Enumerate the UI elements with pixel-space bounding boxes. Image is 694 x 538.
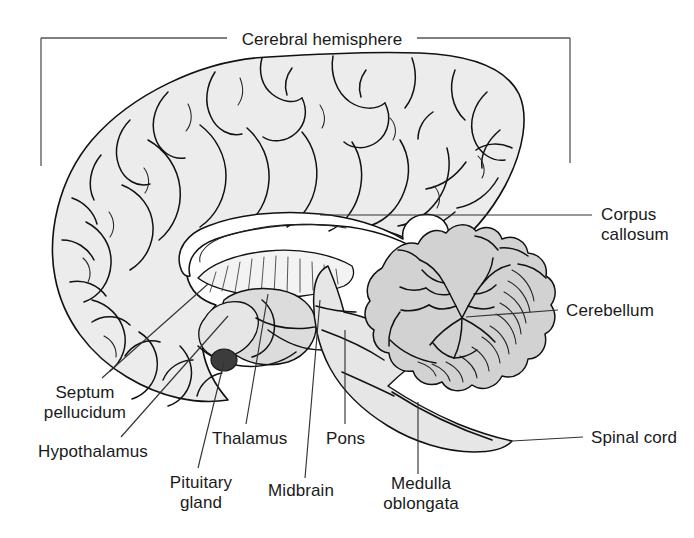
label-cerebellum: Cerebellum <box>566 301 654 320</box>
label-cerebral-hemisphere: Cerebral hemisphere <box>242 30 403 49</box>
label-corpus-callosum-line1: Corpus <box>601 205 656 224</box>
label-pituitary-gland-line2: gland <box>180 493 222 512</box>
brain-diagram: Cerebral hemisphere Corpus callosum Cere… <box>0 0 694 538</box>
label-thalamus: Thalamus <box>212 429 287 448</box>
pituitary-gland-shape <box>211 349 237 371</box>
label-pons: Pons <box>326 429 365 448</box>
label-pituitary-gland-line1: Pituitary <box>170 473 233 492</box>
label-medulla-oblongata-line1: Medulla <box>391 474 452 493</box>
label-medulla-oblongata-line2: oblongata <box>383 494 459 513</box>
label-spinal-cord: Spinal cord <box>591 428 677 447</box>
label-corpus-callosum-line2: callosum <box>601 225 669 244</box>
label-hypothalamus: Hypothalamus <box>38 442 148 461</box>
label-midbrain: Midbrain <box>268 481 334 500</box>
label-septum-pellucidum-line1: Septum <box>55 383 114 402</box>
label-septum-pellucidum-line2: pellucidum <box>44 403 126 422</box>
brain-sagittal-illustration: Cerebral hemisphere Corpus callosum Cere… <box>0 0 694 538</box>
